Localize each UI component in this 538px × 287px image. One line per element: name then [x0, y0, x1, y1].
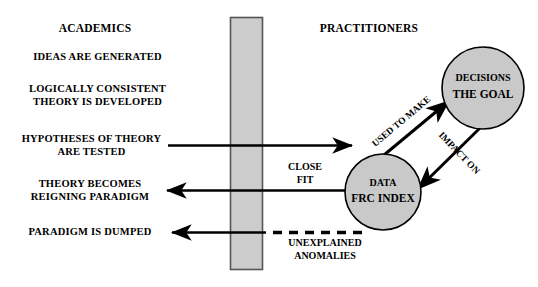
node-data-label-line2: FRC INDEX [341, 191, 425, 206]
diagram-canvas: ACADEMICS PRACTITIONERS IDEAS ARE GENERA… [0, 0, 538, 287]
edge-label-close-fit: CLOSE FIT [275, 161, 335, 186]
edge-label-unexplained-anomalies: UNEXPLAINED ANOMALIES [270, 237, 380, 262]
node-decisions-label-line2: THE GOAL [443, 87, 523, 102]
node-data-label-line1: DATA [343, 176, 423, 189]
node-decisions-label-line1: DECISIONS [443, 71, 523, 84]
